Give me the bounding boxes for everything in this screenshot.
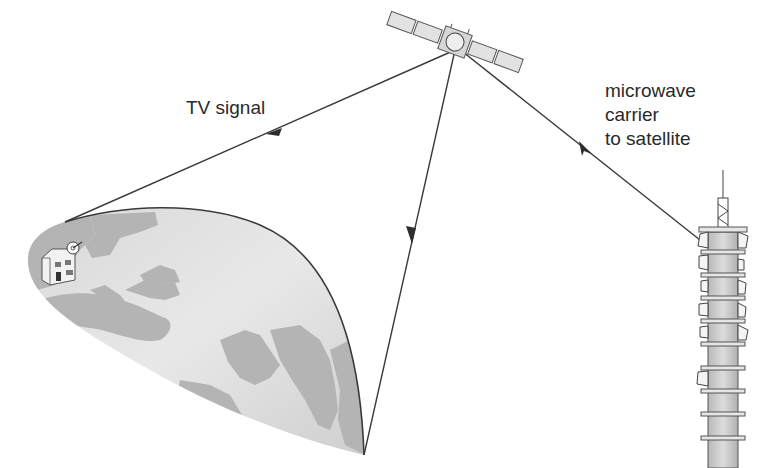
transmission-tower bbox=[697, 170, 748, 468]
uplink-label-line-3: to satellite bbox=[605, 127, 696, 151]
solar-panel bbox=[494, 50, 523, 72]
window-icon bbox=[65, 260, 71, 265]
window-icon bbox=[66, 270, 73, 275]
satellite-tv-diagram bbox=[0, 0, 773, 468]
window-icon bbox=[55, 262, 61, 267]
uplink-label: microwave carrier to satellite bbox=[605, 79, 696, 151]
arrow-icon bbox=[579, 141, 592, 156]
satellite bbox=[385, 2, 526, 77]
solar-panel bbox=[387, 11, 416, 33]
arrow-icon bbox=[406, 226, 416, 244]
uplink-label-line-2: carrier bbox=[605, 103, 696, 127]
uplink-label-line-1: microwave bbox=[605, 79, 696, 103]
tv-signal-label: TV signal bbox=[186, 96, 265, 120]
tv-signal-beam-left bbox=[65, 50, 455, 222]
door-icon bbox=[56, 272, 61, 281]
solar-panel bbox=[413, 21, 442, 43]
tv-signal-beam-right bbox=[364, 50, 455, 455]
